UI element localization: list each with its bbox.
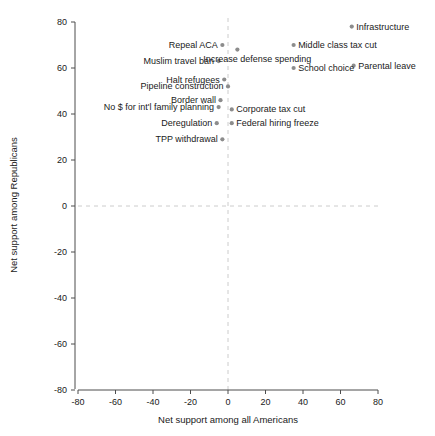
data-point-marker[interactable] <box>350 25 354 29</box>
data-point-label: Federal hiring freeze <box>236 119 319 128</box>
data-point-marker[interactable] <box>292 66 296 70</box>
zero-reference-lines <box>78 18 380 390</box>
data-point-marker[interactable] <box>235 48 239 52</box>
data-point-label: Increase defense spending <box>203 54 311 63</box>
x-tick-label: -60 <box>109 398 122 407</box>
y-tick-label: -80 <box>54 386 67 395</box>
y-tick-label: -40 <box>54 294 67 303</box>
x-tick-label: -80 <box>71 398 84 407</box>
data-point-label: No $ for int'l family planning <box>104 103 214 112</box>
data-point-marker[interactable] <box>292 43 296 47</box>
data-point-label: Corporate tax cut <box>236 105 305 114</box>
y-tick-label: 0 <box>62 202 67 211</box>
data-point-label: Pipeline construction <box>140 82 223 91</box>
data-point-label: Deregulation <box>161 119 212 128</box>
data-point-marker[interactable] <box>217 105 221 109</box>
x-tick-label: -20 <box>184 398 197 407</box>
data-point-marker[interactable] <box>230 121 234 125</box>
data-point-marker[interactable] <box>220 137 224 141</box>
data-point-marker[interactable] <box>215 121 219 125</box>
y-tick-label: 40 <box>57 110 67 119</box>
data-point-label: Repeal ACA <box>169 41 218 50</box>
y-tick-label: -60 <box>54 340 67 349</box>
data-point-marker[interactable] <box>220 43 224 47</box>
data-point-label: Middle class tax cut <box>298 41 377 50</box>
data-point-label: TPP withdrawal <box>156 135 218 144</box>
data-point-label: Parental leave <box>358 61 416 70</box>
x-tick-label: 60 <box>335 398 345 407</box>
data-point-label: Muslim travel ban <box>144 57 215 66</box>
y-axis-title: Net support among Republicans <box>9 137 19 273</box>
data-point-marker[interactable] <box>230 107 234 111</box>
y-tick-label: 60 <box>57 64 67 73</box>
y-tick-label: 80 <box>57 18 67 27</box>
data-point-marker[interactable] <box>218 98 222 102</box>
data-point-marker[interactable] <box>226 84 230 88</box>
x-tick-label: 20 <box>260 398 270 407</box>
scatter-chart-figure: -80-60-40-20020406080 -80-60-40-20020406… <box>0 0 435 436</box>
data-point-label: Infrastructure <box>356 22 409 31</box>
x-axis-title: Net support among all Americans <box>158 415 298 425</box>
x-tick-label: -40 <box>146 398 159 407</box>
x-tick-label: 80 <box>373 398 383 407</box>
data-point-label: School choice <box>298 64 354 73</box>
x-tick-label: 40 <box>298 398 308 407</box>
y-tick-label: -20 <box>54 248 67 257</box>
x-tick-label: 0 <box>225 398 230 407</box>
y-tick-label: 20 <box>57 156 67 165</box>
